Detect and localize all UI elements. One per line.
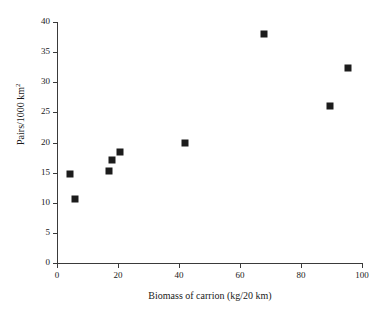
y-tick-label: 20 (26, 138, 50, 147)
x-tick-label: 100 (347, 271, 377, 280)
data-point (182, 140, 189, 147)
data-point (105, 168, 112, 175)
data-point (261, 31, 268, 38)
data-point (116, 149, 123, 156)
y-axis-title-exponent: 2 (14, 83, 22, 87)
y-tick-label: 30 (26, 77, 50, 86)
y-tick-label: 40 (26, 17, 50, 26)
x-tick-label: 60 (225, 271, 255, 280)
data-point (326, 102, 333, 109)
data-point (67, 171, 74, 178)
data-point (72, 195, 79, 202)
data-point (345, 64, 352, 71)
y-axis-title: Pairs/1000 km2 (14, 34, 26, 194)
x-tick-label: 80 (286, 271, 316, 280)
y-tick-label: 5 (26, 228, 50, 237)
y-tick-label: 25 (26, 107, 50, 116)
x-axis-title: Biomass of carrion (kg/20 km) (57, 290, 363, 301)
y-axis-title-text: Pairs/1000 km (15, 87, 26, 145)
x-tick-label: 40 (164, 271, 194, 280)
y-tick-label: 15 (26, 168, 50, 177)
x-tick (240, 264, 241, 268)
data-point (108, 156, 115, 163)
x-tick-label: 20 (103, 271, 133, 280)
x-axis-line (57, 263, 363, 264)
y-tick-label: 10 (26, 198, 50, 207)
x-tick (57, 264, 58, 268)
scatter-chart: 0510152025303540 020406080100 Biomass of… (0, 0, 381, 313)
x-tick (179, 264, 180, 268)
x-tick (301, 264, 302, 268)
x-tick-label: 0 (42, 271, 72, 280)
x-tick (118, 264, 119, 268)
y-tick-label: 0 (26, 258, 50, 267)
plot-area (57, 22, 362, 263)
x-tick (362, 264, 363, 268)
y-tick-label: 35 (26, 47, 50, 56)
